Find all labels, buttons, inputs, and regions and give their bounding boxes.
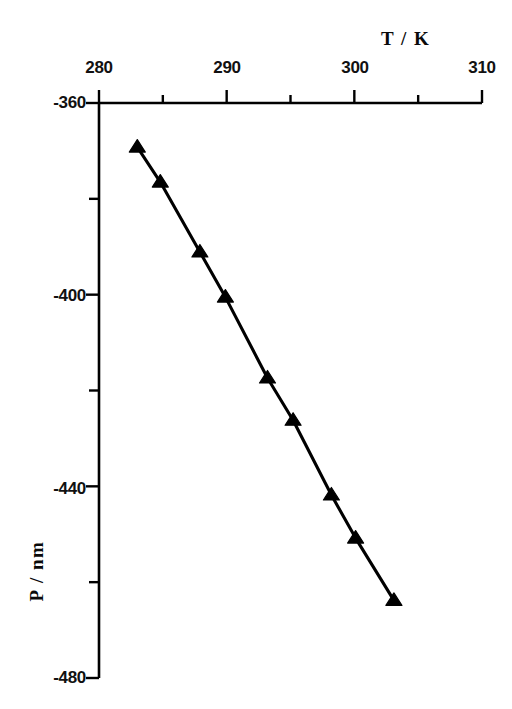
x-axis-ticks [99,90,482,103]
axis-spines [99,103,482,678]
data-point-marker [129,140,145,153]
data-series-markers [129,140,402,606]
data-point-marker [348,531,364,544]
data-point-marker [323,488,339,501]
data-point-marker [152,175,168,188]
y-axis-ticks [86,103,99,678]
data-point-marker [217,290,233,303]
plot-area [0,0,512,709]
data-point-marker [386,593,402,606]
data-point-marker [260,371,276,384]
data-point-marker [192,245,208,258]
chart-figure: T / K P / nm 280 290 300 310 -360 -400 -… [0,0,512,709]
data-point-marker [285,413,301,426]
